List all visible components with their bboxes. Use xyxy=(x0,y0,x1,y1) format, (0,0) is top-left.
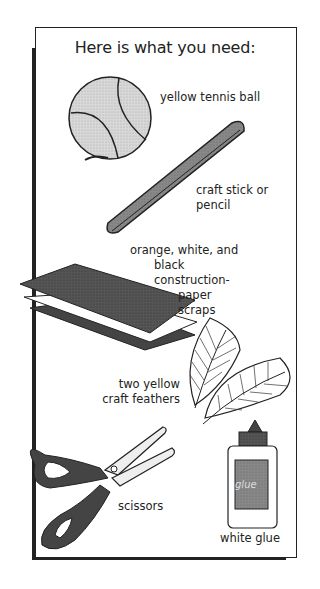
item-label-glue: white glue xyxy=(220,531,280,546)
item-label-scissors: scissors xyxy=(118,499,163,514)
item-label-craft-stick: craft stick or pencil xyxy=(196,183,268,213)
item-label-feathers: two yellow craft feathers xyxy=(100,377,180,407)
item-label-tennis-ball: yellow tennis ball xyxy=(160,90,260,105)
scissors-icon xyxy=(30,427,174,549)
feathers-icon xyxy=(190,318,290,424)
glue-bottle-label: glue xyxy=(235,477,257,492)
item-label-paper-scraps: orange, white, and black construction- p… xyxy=(130,243,250,318)
glue-bottle-icon xyxy=(228,420,277,528)
tennis-ball-icon xyxy=(69,77,151,160)
